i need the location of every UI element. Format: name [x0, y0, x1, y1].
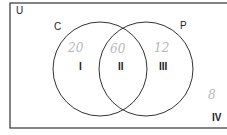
region-iii-label: III — [159, 61, 168, 72]
universe-label: U — [16, 5, 23, 16]
region-iii-value: 12 — [154, 41, 169, 55]
region-i-label: I — [79, 61, 82, 72]
region-ii-label: II — [118, 61, 124, 72]
venn-diagram: U C P 20 60 12 8 I II III IV — [0, 0, 227, 135]
region-ii-value: 60 — [110, 42, 126, 56]
region-iv-label: IV — [212, 112, 222, 123]
set-c-circle — [53, 22, 147, 116]
region-iv-value: 8 — [208, 88, 216, 102]
set-c-label: C — [54, 21, 61, 32]
set-p-circle — [99, 22, 193, 116]
region-i-value: 20 — [67, 41, 84, 55]
set-p-label: P — [180, 20, 187, 31]
